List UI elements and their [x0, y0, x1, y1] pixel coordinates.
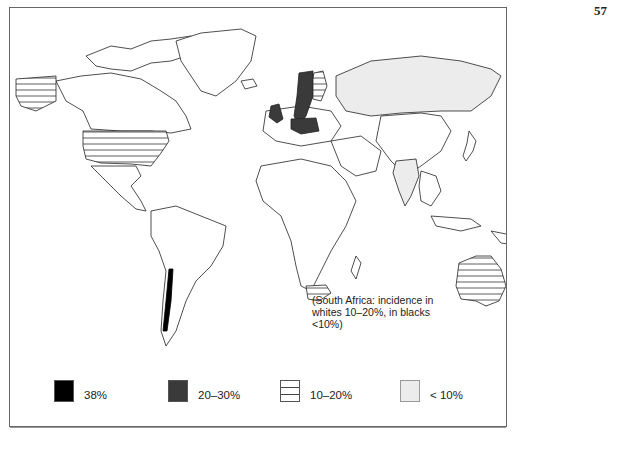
region-india-low [393, 159, 419, 206]
legend-item-20-30: 20–30% [168, 380, 240, 402]
region-usa-medium [83, 131, 169, 166]
legend-swatch-hatched [280, 380, 300, 402]
region-australia-medium [456, 256, 506, 306]
region-russia-low [336, 56, 501, 116]
legend-label: < 10% [430, 389, 463, 401]
legend: 38% 20–30% 10–20% < 10% [9, 362, 507, 427]
legend-label: 38% [84, 389, 107, 401]
south-africa-annotation: (South Africa: incidence in whites 10–20… [312, 294, 447, 330]
legend-swatch-light [400, 380, 420, 402]
legend-swatch-dark [168, 380, 188, 402]
legend-item-lt-10: < 10% [400, 380, 463, 402]
legend-item-10-20: 10–20% [280, 380, 352, 402]
legend-label: 10–20% [310, 389, 352, 401]
legend-item-38: 38% [54, 380, 107, 402]
page-number: 57 [594, 3, 607, 19]
legend-label: 20–30% [198, 389, 240, 401]
region-alaska-medium [16, 76, 56, 111]
legend-swatch-black [54, 380, 74, 402]
